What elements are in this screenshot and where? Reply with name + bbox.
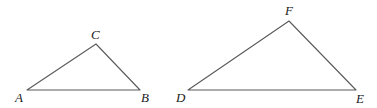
vertex-label-a: A (14, 90, 23, 105)
vertex-label-f: F (284, 3, 294, 18)
vertex-label-c: C (91, 27, 100, 42)
diagram-canvas: A B C D E F (0, 0, 377, 108)
triangle-abc: A B C (14, 27, 149, 105)
triangle-def-outline (188, 21, 356, 90)
vertex-label-b: B (141, 90, 149, 105)
triangle-abc-outline (27, 44, 140, 90)
triangle-def: D E F (175, 3, 364, 106)
vertex-label-e: E (355, 91, 364, 106)
vertex-label-d: D (175, 90, 186, 105)
